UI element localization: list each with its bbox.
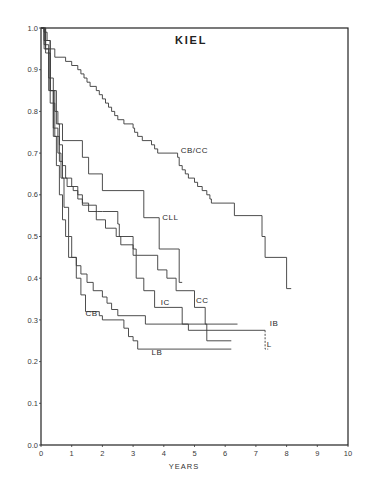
curve-cc — [41, 28, 231, 341]
curve-label-ic: IC — [161, 298, 170, 307]
y-tick-label: 0.6 — [28, 190, 38, 199]
y-tick-label: 0.9 — [28, 65, 38, 74]
plot-border — [41, 28, 348, 445]
x-tick-label: 6 — [223, 449, 227, 458]
x-tick-label: 9 — [315, 449, 319, 458]
curve-label-cb-cc: CB/CC — [181, 146, 208, 155]
curve-cb-cc — [41, 28, 291, 289]
y-tick-label: 0.3 — [28, 316, 38, 325]
x-tick-label: 5 — [192, 449, 196, 458]
y-tick-label: 0.7 — [28, 149, 38, 158]
x-tick-label: 4 — [162, 449, 166, 458]
y-tick-label: 0.0 — [28, 441, 38, 450]
y-tick-label: 0.5 — [28, 232, 38, 241]
curve-ib — [41, 28, 238, 324]
y-tick-label: 0.2 — [28, 357, 38, 366]
curve-label-cll: CLL — [162, 213, 178, 222]
y-tick-label: 0.4 — [28, 274, 38, 283]
y-axis: 0.00.10.20.30.40.50.60.70.80.91.0 — [28, 24, 41, 450]
x-axis: 012345678910 — [39, 445, 352, 458]
x-axis-label: YEARS — [169, 462, 199, 471]
x-tick-label: 10 — [344, 449, 352, 458]
y-tick-label: 0.1 — [28, 399, 38, 408]
curve-label-cc: CC — [196, 296, 209, 305]
curve-labels: CB/CCCLLCCICIBCBLBL — [86, 146, 279, 357]
x-tick-label: 0 — [39, 449, 43, 458]
curve-ic — [41, 28, 265, 330]
curve-label-l: L — [267, 340, 272, 349]
curve-label-cb: CB — [86, 309, 98, 318]
y-tick-label: 1.0 — [28, 24, 38, 33]
curve-label-ib: IB — [270, 319, 279, 328]
plot-frame — [41, 28, 348, 445]
y-tick-label: 0.8 — [28, 107, 38, 116]
x-tick-label: 7 — [254, 449, 258, 458]
survival-chart: 0.00.10.20.30.40.50.60.70.80.91.0 012345… — [0, 0, 369, 491]
chart-title: KIEL — [175, 34, 207, 46]
curve-label-lb: LB — [152, 348, 163, 357]
x-tick-label: 3 — [131, 449, 135, 458]
x-tick-label: 8 — [285, 449, 289, 458]
x-tick-label: 1 — [70, 449, 74, 458]
x-tick-label: 2 — [100, 449, 104, 458]
